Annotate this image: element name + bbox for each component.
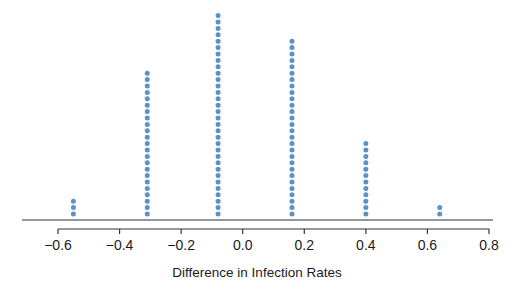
dot-stack — [145, 71, 150, 217]
dot-stack — [216, 13, 221, 216]
data-dot — [216, 45, 221, 50]
data-dot — [289, 109, 294, 114]
data-dot — [145, 167, 150, 172]
data-dot — [145, 180, 150, 185]
data-dot — [437, 205, 442, 210]
dot-stack — [289, 39, 294, 217]
data-dot — [216, 52, 221, 57]
data-dot — [145, 90, 150, 95]
data-dot — [216, 173, 221, 178]
data-dot — [216, 212, 221, 217]
x-tick-label: −0.2 — [167, 237, 195, 253]
data-dot — [289, 167, 294, 172]
data-dot — [216, 96, 221, 101]
dot-plot: −0.6−0.4−0.20.00.20.40.60.8 Difference i… — [0, 0, 521, 290]
data-dot — [216, 26, 221, 31]
data-dot — [289, 58, 294, 63]
data-dot — [289, 148, 294, 153]
data-dot — [216, 71, 221, 76]
data-dot — [216, 148, 221, 153]
data-dot — [216, 135, 221, 140]
data-dot — [216, 109, 221, 114]
data-dot — [145, 160, 150, 165]
data-dot — [145, 96, 150, 101]
dot-stack — [71, 199, 76, 217]
data-dot — [289, 141, 294, 146]
data-dot — [289, 84, 294, 89]
x-tick-label: 0.6 — [418, 237, 438, 253]
data-dot — [363, 160, 368, 165]
data-dot — [289, 135, 294, 140]
x-axis: −0.6−0.4−0.20.00.20.40.60.8 — [44, 229, 499, 253]
data-dot — [289, 52, 294, 57]
data-dot — [289, 212, 294, 217]
data-dot — [216, 122, 221, 127]
data-dot — [216, 199, 221, 204]
data-dot — [363, 148, 368, 153]
data-dot — [145, 141, 150, 146]
data-dot — [363, 167, 368, 172]
data-dot — [363, 180, 368, 185]
data-dot — [289, 96, 294, 101]
data-dot — [216, 116, 221, 121]
data-dot — [145, 135, 150, 140]
x-tick-label: 0.2 — [295, 237, 315, 253]
data-dot — [216, 13, 221, 18]
data-dot — [145, 116, 150, 121]
data-dot — [145, 186, 150, 191]
data-dot — [145, 128, 150, 133]
data-dot — [216, 141, 221, 146]
data-dot — [289, 71, 294, 76]
data-dot — [216, 186, 221, 191]
data-dot — [145, 192, 150, 197]
data-dot — [216, 32, 221, 37]
data-dot — [289, 199, 294, 204]
x-tick-label: 0.0 — [233, 237, 253, 253]
data-dot — [216, 58, 221, 63]
data-dot — [289, 45, 294, 50]
data-dot — [145, 71, 150, 76]
data-dot — [289, 154, 294, 159]
data-dot — [363, 199, 368, 204]
data-dot — [145, 205, 150, 210]
data-dot — [71, 212, 76, 217]
data-dot — [216, 64, 221, 69]
data-dot — [216, 154, 221, 159]
data-dot — [145, 199, 150, 204]
x-tick-label: −0.6 — [44, 237, 72, 253]
data-dot — [71, 205, 76, 210]
data-dot — [289, 173, 294, 178]
data-dot — [216, 180, 221, 185]
data-dot — [216, 205, 221, 210]
data-dot — [289, 77, 294, 82]
data-dot — [216, 77, 221, 82]
data-dot — [437, 212, 442, 217]
data-dot — [216, 160, 221, 165]
data-dot — [289, 116, 294, 121]
data-dot — [289, 122, 294, 127]
data-dot — [216, 103, 221, 108]
data-dot — [71, 199, 76, 204]
dot-stacks — [71, 13, 442, 216]
data-dot — [289, 103, 294, 108]
data-dot — [145, 173, 150, 178]
data-dot — [363, 205, 368, 210]
data-dot — [363, 212, 368, 217]
data-dot — [289, 64, 294, 69]
data-dot — [289, 186, 294, 191]
x-axis-title: Difference in Infection Rates — [172, 265, 342, 280]
data-dot — [289, 192, 294, 197]
data-dot — [216, 39, 221, 44]
data-dot — [145, 84, 150, 89]
data-dot — [145, 212, 150, 217]
x-tick-label: 0.4 — [356, 237, 376, 253]
data-dot — [216, 20, 221, 25]
data-dot — [216, 90, 221, 95]
data-dot — [216, 192, 221, 197]
data-dot — [145, 154, 150, 159]
data-dot — [145, 109, 150, 114]
data-dot — [145, 77, 150, 82]
data-dot — [289, 160, 294, 165]
data-dot — [289, 180, 294, 185]
data-dot — [216, 84, 221, 89]
